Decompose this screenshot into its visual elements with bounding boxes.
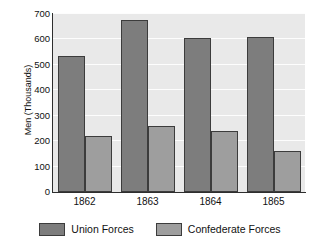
y-tick-label: 500 xyxy=(20,60,50,70)
bar-chart-figure: Men (Thousands) 0100200300400500600700 1… xyxy=(0,0,320,246)
bar-1863-union xyxy=(121,20,148,192)
bar-1864-confederate xyxy=(211,131,238,192)
legend-swatch-icon xyxy=(39,223,65,236)
y-tick-label: 700 xyxy=(20,9,50,19)
y-tick-label: 300 xyxy=(20,111,50,121)
y-tick-label: 400 xyxy=(20,85,50,95)
bar-1863-confederate xyxy=(148,126,175,192)
legend-entry-confederate: Confederate Forces xyxy=(156,223,281,236)
bar-1865-union xyxy=(247,37,274,192)
x-tick-label-1862: 1862 xyxy=(73,196,95,208)
y-axis-tick-labels: 0100200300400500600700 xyxy=(20,0,50,246)
legend-label: Confederate Forces xyxy=(188,223,281,235)
x-tick-label-1865: 1865 xyxy=(262,196,284,208)
x-axis-line xyxy=(52,192,306,193)
bar-1865-confederate xyxy=(274,151,301,192)
y-tick-label: 600 xyxy=(20,34,50,44)
legend-label: Union Forces xyxy=(71,223,133,235)
bar-1864-union xyxy=(184,38,211,192)
legend-entry-union: Union Forces xyxy=(39,223,133,236)
y-tick-label: 0 xyxy=(20,187,50,197)
y-axis-line xyxy=(52,13,53,193)
gridline xyxy=(53,13,305,14)
bar-1862-union xyxy=(58,56,85,192)
y-tick-label: 200 xyxy=(20,136,50,146)
legend-swatch-icon xyxy=(156,223,182,236)
chart-legend: Union ForcesConfederate Forces xyxy=(0,218,320,240)
y-tick-label: 100 xyxy=(20,162,50,172)
x-tick-label-1863: 1863 xyxy=(136,196,158,208)
x-axis-tick-labels: 1862186318641865 xyxy=(53,196,305,212)
bar-1862-confederate xyxy=(85,136,112,192)
x-tick-label-1864: 1864 xyxy=(199,196,221,208)
plot-area xyxy=(53,14,305,192)
